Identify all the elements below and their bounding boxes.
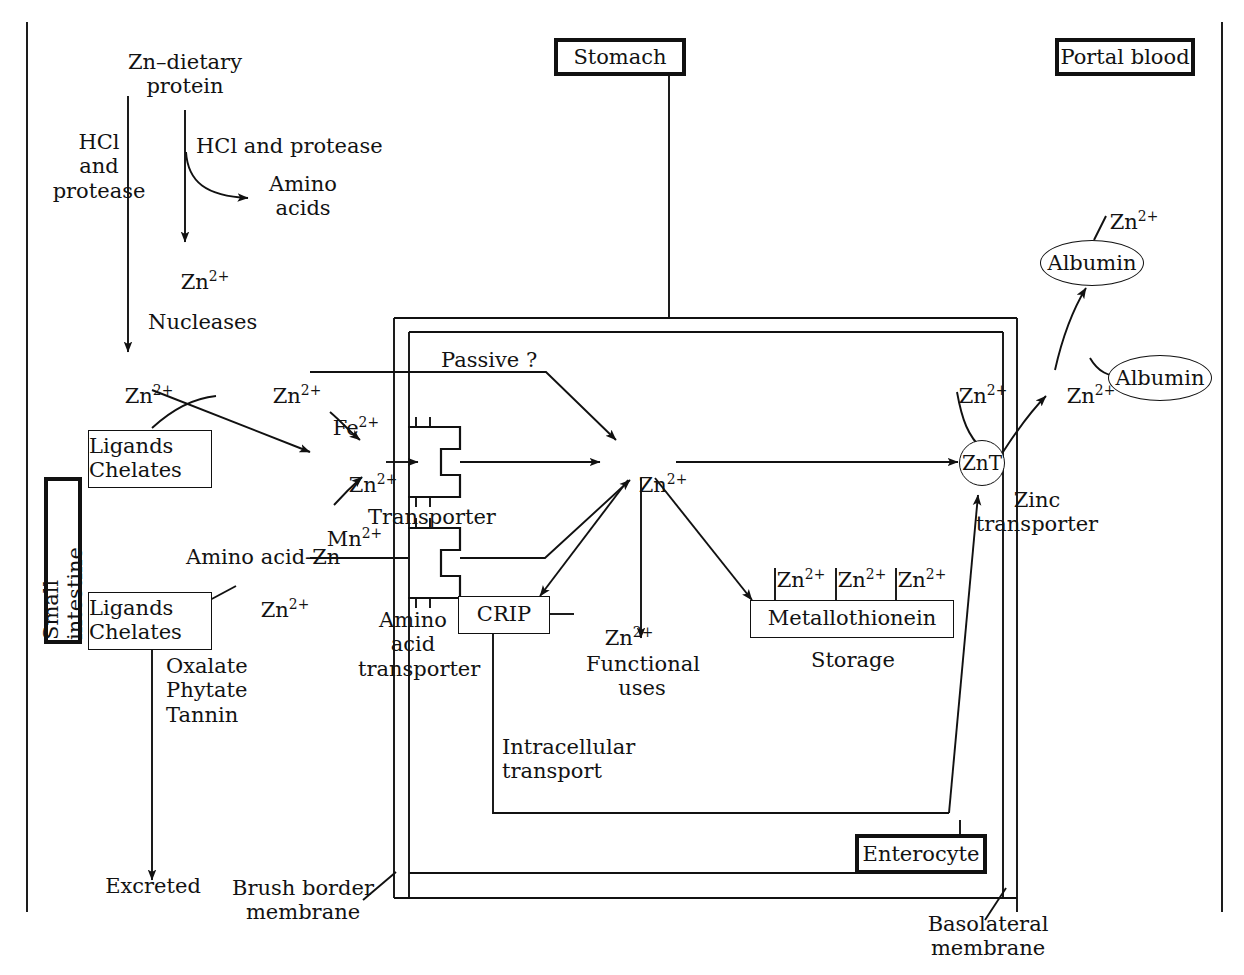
amino-acids-label: Amino acids [248, 172, 358, 221]
metallothionein-label: Metallothionein [768, 607, 936, 631]
basolateral-membrane-label: Basolateral membrane [918, 912, 1058, 961]
passive-diagonal [409, 372, 616, 440]
zn-ion-lumen-left: Zn2+ [98, 360, 173, 433]
zn-ion-near-znt: Zn2+ [932, 360, 1007, 433]
ligands-chelates-box-lower: Ligands Chelates [88, 592, 212, 650]
portal-blood-label-box: Portal blood [1055, 38, 1195, 76]
excreted-label: Excreted [88, 874, 218, 898]
storage-label: Storage [790, 648, 916, 672]
znt-label: ZnT [962, 451, 1002, 475]
metallothionein-box: Metallothionein [750, 600, 954, 638]
amino-acid-transporter-label: Amino acid transporter [358, 608, 468, 681]
hcl-protease-left-label: HCl and protease [44, 130, 154, 203]
ligands-chelates-lower-label: Ligands Chelates [89, 597, 211, 644]
intracellular-transport-to-znt [949, 495, 978, 813]
stomach-label-box: Stomach [554, 38, 686, 76]
albumin-free-label: Albumin [1115, 366, 1204, 390]
zn-ion-on-albumin: Zn2+ [1083, 186, 1158, 259]
oxalate-phytate-tannin-label: Oxalate Phytate Tannin [166, 654, 248, 727]
amino-acid-zn-label: Amino acid-Zn [186, 545, 340, 569]
ligands-chelates-zn-tie [208, 586, 236, 601]
transporter-label: Transporter [368, 505, 496, 529]
zn-ion-from-ligands-lower: Zn2+ [234, 574, 309, 647]
cell-outer-top-rail-left [394, 312, 669, 318]
small-intestine-label: Small intestine [39, 481, 87, 640]
zn-to-albumin-arrow [1055, 288, 1086, 370]
zinc-transporter-label: Zinc transporter [962, 488, 1112, 537]
zinc-absorption-diagram: Stomach Portal blood Small intestine Ent… [0, 0, 1244, 975]
amino-acid-transporter-shape [408, 528, 460, 598]
crip-box: CRIP [458, 596, 550, 634]
znt-node: ZnT [959, 440, 1005, 486]
functional-uses-label: Functional uses [586, 652, 698, 701]
enterocyte-label-box: Enterocyte [855, 834, 987, 874]
hcl-protease-right-label: HCl and protease [196, 134, 383, 158]
nucleases-label: Nucleases [148, 310, 257, 334]
amino-acids-curved-arrow [186, 152, 248, 198]
zn-ion-cytosolic: Zn2+ [612, 449, 687, 522]
stomach-label: Stomach [573, 45, 666, 69]
small-intestine-label-box: Small intestine [44, 477, 82, 644]
passive-label: Passive ? [441, 348, 537, 372]
ligands-chelates-box-upper: Ligands Chelates [88, 430, 212, 488]
portal-blood-label: Portal blood [1060, 45, 1189, 69]
albumin-free-node: Albumin [1108, 355, 1212, 401]
brush-border-membrane-label: Brush border membrane [228, 876, 378, 925]
enterocyte-label: Enterocyte [863, 842, 980, 866]
zn-ion-portal: Zn2+ [1040, 360, 1115, 433]
zn-dietary-protein-label: Zn–dietary protein [92, 50, 278, 99]
intracellular-transport-label: Intracellular transport [502, 735, 635, 784]
crip-label: CRIP [477, 603, 531, 627]
ligands-chelates-upper-label: Ligands Chelates [89, 435, 211, 482]
zn-ion-from-protein: Zn2+ [154, 246, 229, 319]
